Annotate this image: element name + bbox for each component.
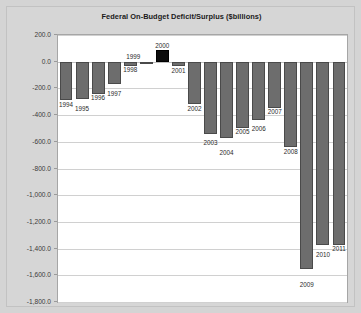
bar-2000 <box>156 50 169 62</box>
y-axis-tick-label: -1,000.0 <box>5 191 51 198</box>
bar-2011 <box>333 62 346 245</box>
bar-2002 <box>188 62 201 105</box>
plot-area: 1994199519961997199819992000200120022003… <box>57 34 348 303</box>
gridline <box>58 35 347 36</box>
chart-title: Federal On-Budget Deficit/Surplus ($bill… <box>7 12 356 21</box>
bar-2010 <box>316 62 329 245</box>
bar-label-2009: 2009 <box>300 281 314 288</box>
gridline <box>58 275 347 276</box>
y-axis-tick-mark <box>54 114 57 115</box>
y-axis-tick-mark <box>54 274 57 275</box>
bar-1996 <box>92 62 105 94</box>
y-axis-tick-label: -1,400.0 <box>5 244 51 251</box>
y-axis-tick-mark <box>54 34 57 35</box>
y-axis-tick-mark <box>54 194 57 195</box>
bar-label-2001: 2001 <box>171 67 185 74</box>
y-axis-tick-label: -400.0 <box>5 111 51 118</box>
y-axis-tick-mark <box>54 141 57 142</box>
bar-label-2004: 2004 <box>220 149 234 156</box>
y-axis-tick-label: 200.0 <box>5 31 51 38</box>
y-axis-tick-mark <box>54 301 57 302</box>
bar-label-1997: 1997 <box>107 90 121 97</box>
bar-label-1995: 1995 <box>75 105 89 112</box>
y-axis-tick-label: -1,800.0 <box>5 298 51 305</box>
bar-2006 <box>252 62 265 120</box>
y-axis-tick-mark <box>54 221 57 222</box>
bar-label-2008: 2008 <box>284 148 298 155</box>
chart-area: Federal On-Budget Deficit/Surplus ($bill… <box>6 6 355 307</box>
bar-label-2003: 2003 <box>204 139 218 146</box>
bar-1995 <box>76 62 89 99</box>
y-axis-tick-mark <box>54 168 57 169</box>
bar-label-2010: 2010 <box>316 251 330 258</box>
bar-label-2006: 2006 <box>252 125 266 132</box>
y-axis-tick-label: -200.0 <box>5 84 51 91</box>
bar-2007 <box>268 62 281 108</box>
y-axis-tick-mark <box>54 248 57 249</box>
y-axis-tick-label: -1,600.0 <box>5 271 51 278</box>
bar-2001 <box>172 62 185 66</box>
bar-label-1998: 1998 <box>123 66 137 73</box>
bar-2003 <box>204 62 217 134</box>
bar-label-2007: 2007 <box>268 108 282 115</box>
bar-label-1996: 1996 <box>91 94 105 101</box>
bar-label-1994: 1994 <box>59 101 73 108</box>
gridline <box>58 302 347 303</box>
bar-2008 <box>284 62 297 147</box>
bar-1998 <box>124 62 137 66</box>
bar-2004 <box>220 62 233 138</box>
bar-label-2005: 2005 <box>236 128 250 135</box>
bar-2009 <box>300 62 313 269</box>
bar-label-1999: 1999 <box>126 53 140 60</box>
bar-1994 <box>60 62 73 101</box>
bar-2005 <box>236 62 249 128</box>
chart-screenshot: Federal On-Budget Deficit/Surplus ($bill… <box>0 0 361 313</box>
y-axis-tick-label: 0.0 <box>5 57 51 64</box>
y-axis-tick-label: -800.0 <box>5 164 51 171</box>
y-axis-tick-mark <box>54 87 57 88</box>
bar-label-2011: 2011 <box>332 245 346 252</box>
bar-label-2000: 2000 <box>155 42 169 49</box>
y-axis-tick-mark <box>54 61 57 62</box>
bar-1999 <box>140 62 153 64</box>
bar-label-2002: 2002 <box>187 105 201 112</box>
y-axis-tick-label: -600.0 <box>5 137 51 144</box>
y-axis-tick-label: -1,200.0 <box>5 217 51 224</box>
bar-1997 <box>108 62 121 85</box>
